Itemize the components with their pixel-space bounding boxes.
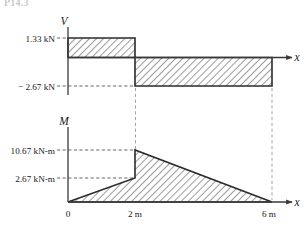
- shear-positive-value-label: 1.33 kN: [25, 34, 55, 44]
- x-tick-2m: 2 m: [128, 209, 142, 219]
- figure-caption-label: P14.3: [4, 0, 29, 8]
- moment-x-axis-label: x: [293, 196, 300, 208]
- moment-peak-value-label: 10.67 kN-m: [11, 146, 55, 156]
- shear-diagram-group: V x 1.33 kN − 2.67 kN: [18, 15, 301, 95]
- x-tick-0: 0: [66, 209, 71, 219]
- shear-x-axis-label: x: [293, 51, 300, 63]
- moment-midvalue-label: 2.67 kN-m: [15, 174, 55, 184]
- moment-diagram-group: M x 10.67 kN-m 2.67 kN-m 0 2 m 6 m: [11, 115, 301, 219]
- beam-diagrams-svg: V x 1.33 kN − 2.67 kN M x 10.67 kN-m 2.6…: [0, 0, 308, 228]
- shear-positive-region: [68, 38, 135, 58]
- moment-m-axis-label: M: [58, 115, 70, 127]
- shear-negative-region: [135, 58, 272, 87]
- shear-v-axis-label: V: [60, 15, 69, 27]
- x-tick-6m: 6 m: [262, 209, 276, 219]
- moment-region: [68, 150, 272, 202]
- shear-negative-value-label: − 2.67 kN: [18, 82, 55, 92]
- figure-container: P14.3 V x 1.33 kN: [0, 0, 308, 228]
